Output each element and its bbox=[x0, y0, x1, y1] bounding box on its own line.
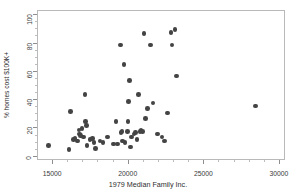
x-tick-minor bbox=[218, 160, 219, 162]
x-tick-mark bbox=[279, 160, 280, 164]
data-point bbox=[165, 111, 170, 116]
data-point bbox=[151, 101, 156, 106]
y-tick-label: 100 bbox=[27, 14, 34, 25]
x-tick-label: 30000 bbox=[269, 170, 288, 177]
data-point bbox=[120, 129, 125, 134]
data-point bbox=[148, 43, 153, 48]
data-point bbox=[127, 78, 132, 83]
data-point bbox=[143, 116, 148, 121]
data-point bbox=[123, 140, 128, 145]
x-tick-label: 25000 bbox=[194, 170, 213, 177]
y-tick-label: 20 bbox=[27, 127, 34, 134]
data-point bbox=[170, 43, 175, 48]
x-tick-label: 15000 bbox=[43, 170, 62, 177]
x-tick-minor bbox=[173, 160, 174, 162]
data-point bbox=[101, 140, 106, 145]
y-axis-title: % homes cost $100K+ bbox=[3, 52, 10, 118]
data-point bbox=[114, 119, 119, 124]
data-point bbox=[145, 106, 150, 111]
data-point bbox=[136, 92, 141, 97]
data-point bbox=[81, 135, 86, 140]
x-tick-minor bbox=[67, 160, 68, 162]
y-tick-label: 80 bbox=[27, 43, 34, 50]
data-points-layer bbox=[38, 11, 284, 159]
data-point bbox=[140, 129, 145, 134]
data-point bbox=[93, 146, 98, 151]
x-tick-minor bbox=[249, 160, 250, 162]
x-tick-minor bbox=[234, 160, 235, 162]
data-point bbox=[135, 137, 140, 142]
x-tick-minor bbox=[158, 160, 159, 162]
data-point bbox=[46, 143, 51, 148]
data-point bbox=[162, 139, 167, 144]
y-tick-label: 0 bbox=[27, 156, 34, 160]
data-point bbox=[125, 129, 130, 134]
scatter-plot-figure: % homes cost $100K+ 020406080100 1979 Me… bbox=[0, 0, 296, 192]
data-point bbox=[118, 43, 123, 48]
x-tick-mark bbox=[128, 160, 129, 164]
x-tick-minor bbox=[264, 160, 265, 162]
data-point bbox=[83, 92, 88, 97]
data-point bbox=[92, 140, 97, 145]
data-point bbox=[85, 143, 90, 148]
data-point bbox=[142, 31, 147, 36]
data-point bbox=[67, 147, 72, 152]
x-tick-minor bbox=[188, 160, 189, 162]
plot-area bbox=[37, 10, 285, 160]
data-point bbox=[128, 145, 133, 150]
data-point bbox=[115, 142, 120, 147]
x-tick-label: 20000 bbox=[118, 170, 137, 177]
data-point bbox=[122, 62, 127, 67]
x-tick-minor bbox=[82, 160, 83, 162]
data-point bbox=[68, 109, 73, 114]
data-point bbox=[173, 27, 178, 32]
x-tick-minor bbox=[97, 160, 98, 162]
data-point bbox=[174, 74, 179, 79]
y-tick-label: 40 bbox=[27, 99, 34, 106]
x-axis-title: 1979 Median Family Inc. bbox=[109, 181, 187, 189]
x-axis: 1979 Median Family Inc. 1500020000250003… bbox=[0, 160, 296, 192]
x-tick-minor bbox=[113, 160, 114, 162]
data-point bbox=[126, 99, 131, 104]
data-point bbox=[253, 104, 258, 109]
x-tick-mark bbox=[203, 160, 204, 164]
data-point bbox=[126, 119, 131, 124]
data-point bbox=[75, 139, 80, 144]
data-point bbox=[84, 123, 89, 128]
x-tick-mark bbox=[52, 160, 53, 164]
x-tick-minor bbox=[143, 160, 144, 162]
data-point bbox=[105, 135, 110, 140]
y-tick-label: 60 bbox=[27, 71, 34, 78]
